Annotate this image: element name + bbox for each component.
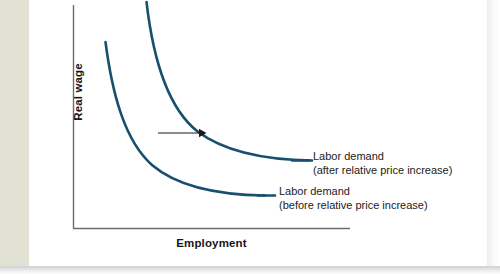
curve-label-before-line2: (before relative price increase)	[279, 199, 428, 213]
curve-label-before-line1: Labor demand	[279, 185, 428, 199]
curve-label-labor-demand-before: Labor demand (before relative price incr…	[279, 185, 428, 212]
shift-arrow-icon	[158, 129, 207, 137]
figure-root: Real wage Employment Labor demand (after…	[0, 0, 500, 274]
y-axis-title: Real wage	[72, 32, 84, 152]
curve-label-after-line1: Labor demand	[313, 150, 452, 164]
curve-labor-demand-after	[147, 2, 313, 161]
x-axis-title: Employment	[73, 237, 350, 249]
curve-label-after-line2: (after relative price increase)	[313, 164, 452, 178]
curve-label-labor-demand-after: Labor demand (after relative price incre…	[313, 150, 452, 177]
